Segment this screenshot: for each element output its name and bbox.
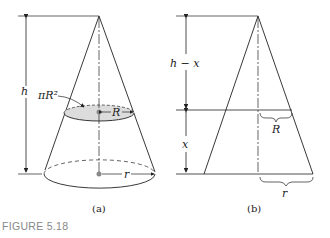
slice-radius-label-b: R (271, 123, 280, 136)
base-radius-label-a: r (124, 168, 130, 181)
panel-a-label: (a) (92, 203, 106, 214)
slice-radius-brace (260, 113, 292, 122)
area-label: πR² (37, 89, 58, 102)
triangle-left-side (204, 16, 258, 174)
triangle-right-side (258, 16, 313, 174)
height-label-a: h (21, 85, 28, 98)
cone-right-side (99, 16, 155, 172)
upper-length-label: h − x (170, 57, 200, 70)
figure-caption: FIGURE 5.18 (2, 220, 68, 232)
base-center-dot (97, 172, 102, 177)
triangle-diagram-b (176, 16, 313, 186)
cone-diagram-a (18, 16, 155, 188)
panel-b-label: (b) (247, 203, 261, 214)
figure-canvas: h πR² R r (a) h − x x R r (b) (0, 0, 330, 238)
slice-center-dot (97, 110, 102, 115)
lower-length-label: x (182, 138, 189, 151)
slice-radius-label-a: R (111, 106, 120, 119)
area-leader-arrow (58, 96, 84, 107)
base-radius-label-b: r (282, 187, 288, 200)
base-radius-brace (260, 177, 313, 186)
